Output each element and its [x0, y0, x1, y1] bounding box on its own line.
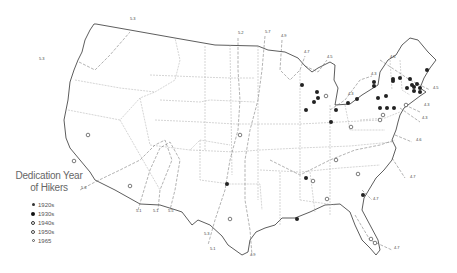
isoline-label: 4.3: [422, 115, 428, 120]
filled-marker: [316, 96, 320, 100]
isoline-label: 4.7: [373, 196, 379, 201]
ring-marker: [325, 197, 329, 201]
filled-marker: [372, 80, 376, 84]
filled-marker: [415, 82, 419, 86]
isoline-label: 4.3: [371, 71, 377, 76]
isoline-label: 4.9: [250, 252, 256, 257]
filled-marker: [295, 217, 299, 221]
legend-item-1920s: 1920s: [28, 200, 84, 209]
filled-marker: [225, 182, 229, 186]
filled-marker: [412, 89, 416, 93]
legend-item-1940s: 1940s: [28, 218, 84, 227]
filled-marker: [405, 86, 409, 90]
isoline-label: 4.3: [424, 102, 430, 107]
ring-marker: [86, 133, 90, 137]
filled-marker: [398, 76, 402, 80]
filled-marker: [425, 68, 429, 72]
legend: Dedication Year of Hikers 1920s 1930s 19…: [14, 170, 84, 245]
filled-marker: [355, 97, 359, 101]
legend-item-1930s: 1930s: [28, 209, 84, 218]
isoline-label: 4.5: [327, 54, 333, 59]
isoline-label: 5.3: [130, 16, 136, 21]
thick-ring-icon: [31, 221, 35, 225]
legend-label: 1930s: [38, 211, 54, 217]
filled-marker: [412, 85, 416, 89]
ring-marker: [311, 179, 315, 183]
legend-item-1965: 1965: [28, 236, 84, 245]
filled-marker: [304, 176, 308, 180]
state-borders: [68, 38, 410, 225]
isoline-label: 4.7: [410, 174, 416, 179]
isoline-label: 5.5: [168, 208, 174, 213]
filled-marker: [372, 84, 376, 88]
legend-title-line1: Dedication Year: [14, 170, 84, 182]
isoline-label: 5.1: [210, 246, 216, 251]
isoline-label: 5.3: [204, 231, 210, 236]
filled-marker: [418, 86, 422, 90]
legend-items: 1920s 1930s 1940s 1950s 1965: [28, 200, 84, 245]
filled-marker: [334, 108, 338, 112]
legend-label: 1920s: [38, 202, 54, 208]
legend-label: 1965: [38, 238, 51, 244]
legend-title-line2: of Hikers: [14, 182, 84, 194]
ring-marker: [334, 158, 338, 162]
filled-marker: [392, 106, 396, 110]
isoline-label: 4.6: [416, 137, 422, 142]
legend-item-1950s: 1950s: [28, 227, 84, 236]
ring-marker: [369, 237, 373, 241]
ring-marker: [378, 118, 382, 122]
filled-marker: [346, 101, 350, 105]
filled-marker: [315, 90, 319, 94]
filled-marker: [384, 94, 388, 98]
isoline-label: 5.1: [153, 208, 159, 213]
small-ring-icon: [32, 239, 35, 242]
filled-marker: [361, 193, 365, 197]
ring-marker: [356, 172, 360, 176]
filled-marker: [391, 79, 395, 83]
ring-marker: [72, 159, 76, 163]
small-filled-dot-icon: [32, 203, 35, 206]
isoline-label: 4.3: [348, 91, 354, 96]
isoline-label: 4.5: [433, 85, 439, 90]
filled-marker: [385, 106, 389, 110]
isoline-label: 4.7: [304, 49, 310, 54]
ring-icon: [31, 230, 35, 234]
isoline-label: 4.7: [394, 245, 400, 250]
us-outline: [64, 24, 436, 255]
ring-marker: [324, 94, 328, 98]
isoline-label: 5.3: [39, 56, 45, 61]
filled-marker: [304, 108, 308, 112]
isoline-label: 5.7: [265, 29, 271, 34]
filled-marker: [418, 90, 422, 94]
ring-marker: [381, 113, 385, 117]
isoline-label: 5.2: [238, 30, 244, 35]
isoline-label: 4.9: [281, 33, 287, 38]
ring-marker: [404, 103, 408, 107]
filled-marker: [376, 96, 380, 100]
dedication-markers: [72, 68, 429, 245]
filled-marker: [300, 83, 304, 87]
ring-marker: [238, 133, 242, 137]
legend-label: 1940s: [38, 220, 54, 226]
legend-label: 1950s: [38, 229, 54, 235]
ring-marker: [373, 241, 377, 245]
ring-marker: [349, 125, 353, 129]
isoline-label: 4.5: [390, 54, 396, 59]
filled-dot-icon: [31, 212, 35, 216]
isoline-label: 5.1: [136, 208, 142, 213]
filled-marker: [408, 77, 412, 81]
filled-marker: [312, 100, 316, 104]
ring-marker: [128, 184, 132, 188]
ring-marker: [228, 217, 232, 221]
filled-marker: [329, 120, 333, 124]
filled-marker: [378, 106, 382, 110]
